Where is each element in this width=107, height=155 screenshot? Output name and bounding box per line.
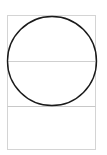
outer-rectangle xyxy=(8,16,96,150)
diagram-canvas xyxy=(0,0,107,155)
